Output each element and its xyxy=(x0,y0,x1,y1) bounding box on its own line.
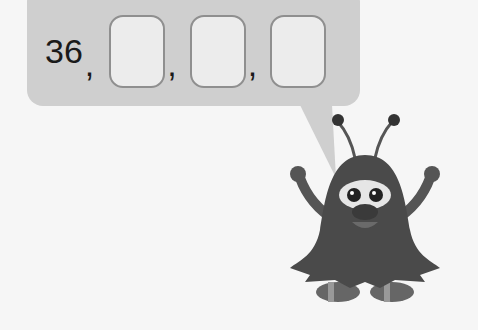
separator: , xyxy=(248,39,257,89)
first-number: 36 xyxy=(45,32,83,71)
separator: , xyxy=(85,39,94,89)
separator: , xyxy=(167,39,176,89)
answer-box-1[interactable] xyxy=(109,15,165,88)
answer-box-3[interactable] xyxy=(270,15,326,88)
number-sequence: 36 , , , xyxy=(45,14,326,89)
monster-mascot-icon xyxy=(280,110,450,315)
answer-box-2[interactable] xyxy=(190,15,246,88)
